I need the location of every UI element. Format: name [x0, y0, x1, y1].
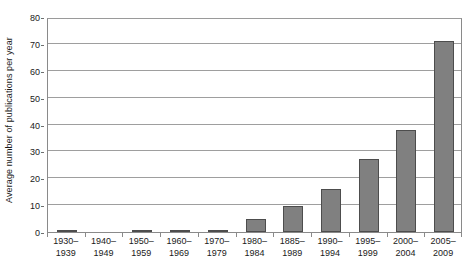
- x-tick-label-line1: 1980–: [236, 236, 274, 248]
- y-tick-mark: [41, 126, 44, 127]
- y-tick-label: 30: [30, 147, 40, 157]
- bar: [396, 130, 416, 232]
- y-axis-tick-labels: 01020304050607080: [18, 13, 44, 235]
- x-tick-label: 1940–1949: [85, 236, 123, 259]
- x-tick-label: 1960–1969: [160, 236, 198, 259]
- y-tick-label: 70: [30, 40, 40, 50]
- x-tick-label-line1: 1930–: [47, 236, 85, 248]
- x-tick-label: 1970–1979: [198, 236, 236, 259]
- y-tick-mark: [41, 99, 44, 100]
- y-axis-title: Average number of publications per year: [0, 0, 18, 240]
- bar: [434, 41, 454, 232]
- bar: [359, 159, 379, 232]
- x-tick-label-line2: 1984: [236, 248, 274, 260]
- x-tick-label-line1: 2000–: [387, 236, 425, 248]
- x-tick-label: 1950–1959: [122, 236, 160, 259]
- plot-area: [47, 18, 462, 233]
- bar: [57, 230, 77, 232]
- bar: [321, 189, 341, 232]
- x-tick-label-line1: 1940–: [85, 236, 123, 248]
- bar: [283, 206, 303, 232]
- x-axis-tick-labels: 1930–19391940–19491950–19591960–19691970…: [47, 236, 462, 270]
- x-tick-label-line2: 1979: [198, 248, 236, 260]
- bar-chart-figure: Average number of publications per year …: [0, 0, 470, 271]
- x-tick-label-line2: 1999: [349, 248, 387, 260]
- bar: [132, 230, 152, 232]
- y-tick-label: 50: [30, 94, 40, 104]
- y-axis-title-text: Average number of publications per year: [4, 37, 14, 203]
- y-tick-mark: [41, 233, 44, 234]
- y-tick-mark: [41, 152, 44, 153]
- x-tick-label-line2: 1989: [273, 248, 311, 260]
- x-tick-label-line1: 1970–: [198, 236, 236, 248]
- x-tick-label-line2: 1939: [47, 248, 85, 260]
- x-tick-label-line2: 1949: [85, 248, 123, 260]
- y-tick-mark: [41, 72, 44, 73]
- x-tick-label-line2: 1994: [311, 248, 349, 260]
- y-tick-label: 80: [30, 13, 40, 23]
- x-tick-label: 2005–2009: [424, 236, 462, 259]
- x-tick-label: 1990–1994: [311, 236, 349, 259]
- x-tick-label-line2: 1959: [122, 248, 160, 260]
- bars-layer: [48, 19, 461, 232]
- y-tick-label: 10: [30, 201, 40, 211]
- x-tick-label: 2000–2004: [387, 236, 425, 259]
- x-tick-label: 1980–1984: [236, 236, 274, 259]
- x-tick-label-line1: 1885–: [273, 236, 311, 248]
- x-tick-label-line1: 2005–: [424, 236, 462, 248]
- y-tick-label: 40: [30, 121, 40, 131]
- x-tick-label-line1: 1960–: [160, 236, 198, 248]
- x-tick-label: 1930–1939: [47, 236, 85, 259]
- x-tick-label-line1: 1950–: [122, 236, 160, 248]
- bar: [170, 230, 190, 232]
- y-tick-mark: [41, 18, 44, 19]
- bar: [208, 230, 228, 232]
- x-tick-label-line1: 1995–: [349, 236, 387, 248]
- y-tick-mark: [41, 179, 44, 180]
- x-tick-label-line2: 1969: [160, 248, 198, 260]
- bar: [246, 219, 266, 232]
- x-tick-label: 1995–1999: [349, 236, 387, 259]
- y-tick-mark: [41, 45, 44, 46]
- x-tick-label: 1885–1989: [273, 236, 311, 259]
- x-tick-label-line1: 1990–: [311, 236, 349, 248]
- y-tick-label: 0: [35, 228, 40, 238]
- y-tick-mark: [41, 206, 44, 207]
- y-tick-label: 60: [30, 67, 40, 77]
- y-tick-label: 20: [30, 174, 40, 184]
- x-tick-label-line2: 2004: [387, 248, 425, 260]
- x-tick-label-line2: 2009: [424, 248, 462, 260]
